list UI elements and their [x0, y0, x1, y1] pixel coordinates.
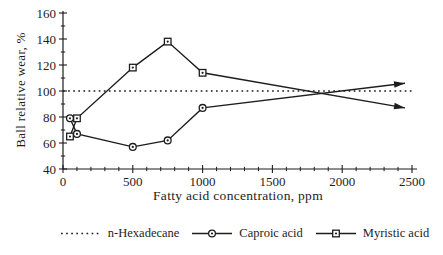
legend: n-Hexadecane Caproic acid Myristic acid: [45, 226, 443, 241]
circle-marker-dot: [69, 117, 71, 119]
arrowhead-icon: [394, 81, 405, 87]
circle-marker-dot: [132, 146, 134, 148]
circle-marker-dot: [202, 107, 204, 109]
square-marker-dot: [132, 67, 134, 69]
y-tick-label: 140: [37, 32, 57, 47]
x-axis-title: Fatty acid concentration, ppm: [63, 188, 413, 204]
circle-marker-dot: [167, 139, 169, 141]
series-line-caproic-acid: [70, 83, 405, 147]
square-marker-dot: [167, 41, 169, 43]
legend-label: Myristic acid: [363, 226, 429, 241]
y-tick-label: 100: [37, 84, 57, 99]
chart-canvas: 05001000150020002500406080100120140160: [0, 0, 443, 255]
circle-marker-sample-icon: [190, 227, 234, 240]
legend-item-caproic-acid: Caproic acid: [190, 226, 303, 241]
legend-item-n-hexadecane: n-Hexadecane: [59, 226, 179, 241]
legend-item-myristic-acid: Myristic acid: [314, 226, 429, 241]
fatty-acid-wear-chart: 05001000150020002500406080100120140160 B…: [0, 0, 443, 255]
dotted-line-sample-icon: [59, 227, 103, 240]
y-tick-label: 120: [37, 58, 57, 73]
circle-marker-dot: [76, 133, 78, 135]
y-tick-label: 80: [43, 110, 56, 125]
x-tick-label: 2000: [329, 174, 355, 189]
y-tick-label: 40: [43, 162, 56, 177]
square-marker-sample-icon: [314, 227, 358, 240]
x-tick-label: 1500: [259, 174, 285, 189]
x-tick-label: 0: [60, 174, 67, 189]
y-tick-label: 60: [43, 136, 56, 151]
square-marker-dot: [69, 135, 71, 137]
legend-label: n-Hexadecane: [108, 226, 179, 241]
y-tick-label: 160: [37, 6, 57, 21]
x-tick-label: 1000: [190, 174, 216, 189]
square-marker-dot: [76, 117, 78, 119]
y-axis-title: Ball relative wear, %: [13, 10, 29, 170]
legend-label: Caproic acid: [239, 226, 303, 241]
square-marker-dot: [202, 72, 204, 74]
x-tick-label: 2500: [399, 174, 425, 189]
x-tick-label: 500: [123, 174, 143, 189]
